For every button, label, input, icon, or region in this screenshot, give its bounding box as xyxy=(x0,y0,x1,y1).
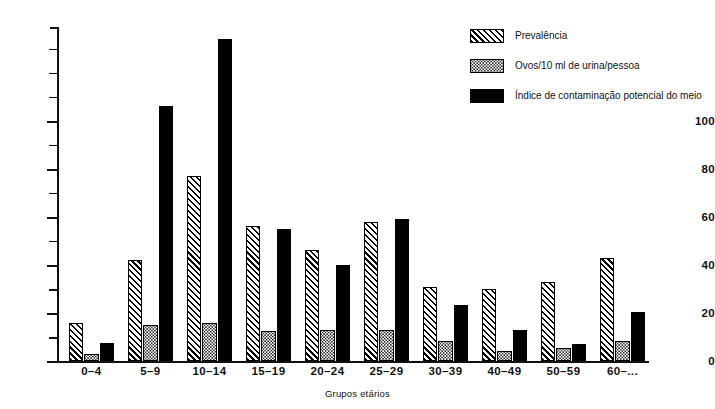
bar xyxy=(364,222,379,361)
bar xyxy=(513,330,528,361)
y-tick-minor xyxy=(49,49,58,51)
bar xyxy=(600,258,615,361)
bar xyxy=(143,325,158,361)
y-tick-label: 0 xyxy=(669,356,715,368)
bar xyxy=(615,341,630,361)
legend-swatch-hatch-icon xyxy=(470,29,504,43)
bar-group xyxy=(364,27,409,361)
bar xyxy=(218,39,233,361)
bar-chart: 020406080100 0–45–910–1415–1920–2425–293… xyxy=(0,0,715,409)
y-tick-minor xyxy=(49,97,58,99)
bar xyxy=(572,344,587,361)
y-tick-minor xyxy=(49,337,58,339)
bar xyxy=(438,341,453,361)
legend-swatch-solid-icon xyxy=(470,89,504,103)
y-tick-minor xyxy=(49,145,58,147)
bar xyxy=(84,354,99,361)
y-tick-major xyxy=(47,313,58,315)
y-tick-major xyxy=(47,217,58,219)
legend-item-prevalencia: Prevalência xyxy=(470,28,712,43)
legend-label: Ovos/10 ml de urina/pessoa xyxy=(515,61,640,71)
bar-group xyxy=(423,27,468,361)
y-tick-minor xyxy=(49,289,58,291)
bar xyxy=(246,226,261,361)
bar-group xyxy=(187,27,232,361)
y-tick-major xyxy=(47,121,58,123)
bar xyxy=(159,106,174,361)
y-tick-minor xyxy=(49,73,58,75)
bar xyxy=(320,330,335,361)
y-tick-minor xyxy=(49,193,58,195)
bar xyxy=(379,330,394,361)
x-tick-label: 60–... xyxy=(580,366,665,378)
bar xyxy=(454,305,469,361)
y-tick-major xyxy=(47,265,58,267)
bar-group xyxy=(246,27,291,361)
bar xyxy=(556,348,571,361)
legend-item-ovos: Ovos/10 ml de urina/pessoa xyxy=(470,58,712,73)
legend-label: Índice de contaminação potencial do meio xyxy=(515,91,702,101)
chart-legend: Prevalência Ovos/10 ml de urina/pessoa Í… xyxy=(470,28,712,118)
legend-item-indice: Índice de contaminação potencial do meio xyxy=(470,88,712,103)
y-tick-major xyxy=(47,169,58,171)
bar xyxy=(482,289,497,361)
bar-group xyxy=(69,27,114,361)
x-axis-title: Grupos etários xyxy=(0,389,715,399)
y-tick-label: 40 xyxy=(669,260,715,272)
bar xyxy=(128,260,143,361)
bar-group xyxy=(128,27,173,361)
y-tick-minor xyxy=(49,241,58,243)
bar xyxy=(305,250,320,361)
bar-group xyxy=(305,27,350,361)
bar xyxy=(277,229,292,361)
bar xyxy=(336,265,351,361)
bar xyxy=(423,287,438,361)
bar xyxy=(395,219,410,361)
bar xyxy=(631,312,646,361)
legend-label: Prevalência xyxy=(515,31,567,41)
bar xyxy=(261,331,276,361)
bar xyxy=(497,351,512,361)
bar xyxy=(69,323,84,361)
bar xyxy=(541,282,556,361)
y-axis-top-cap xyxy=(50,27,59,29)
y-tick-label: 20 xyxy=(669,308,715,320)
x-axis-line xyxy=(57,361,649,363)
y-tick-major xyxy=(47,361,58,363)
bar xyxy=(187,176,202,361)
y-tick-label: 60 xyxy=(669,212,715,224)
bar xyxy=(100,343,115,361)
y-tick-label: 80 xyxy=(669,164,715,176)
legend-swatch-dots-icon xyxy=(470,59,504,73)
bar xyxy=(202,323,217,361)
